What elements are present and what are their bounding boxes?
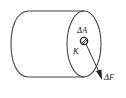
point-label: K <box>72 46 80 56</box>
force-label: ΔF <box>103 72 115 82</box>
cylinder-body <box>11 11 101 77</box>
area-label: ΔA <box>76 25 88 35</box>
force-vector <box>86 44 102 80</box>
cylinder-left-end <box>11 11 29 77</box>
force-arrowhead-icon <box>96 70 102 81</box>
force-arrow-shaft <box>86 44 99 72</box>
cylinder-diagram: ΔA K ΔF <box>0 0 126 98</box>
area-element <box>80 37 87 44</box>
